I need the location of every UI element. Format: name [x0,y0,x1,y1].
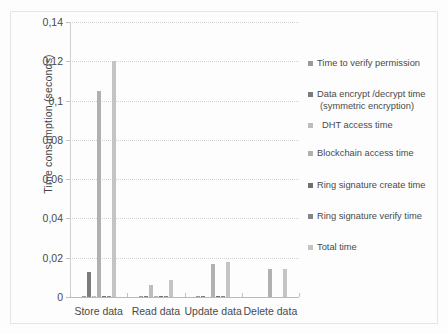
legend-swatch-icon [308,245,313,250]
x-axis-separator [185,293,186,297]
chart-figure: Time consumption (seconds) 00,020,040,06… [0,0,448,334]
bar-group: Delete data [242,22,299,297]
bar-group: Store data [70,22,127,297]
legend-item-label: Total time [317,242,357,254]
bar [97,91,101,297]
gridline [70,297,299,298]
y-axis-tick-label: 0,06 [43,173,63,185]
bar [144,296,148,297]
y-axis-tick-label: 0,1 [48,95,63,107]
bar [87,272,91,297]
x-axis-tick-label: Delete data [244,305,298,317]
bar-group: Read data [127,22,184,297]
legend-item[interactable]: Ring signature create time [308,180,442,192]
legend-item-label: Blockchain access time [317,148,414,160]
bar-groups: Store dataRead dataUpdate dataDelete dat… [70,22,299,297]
bar [221,296,225,297]
legend-item-label: Ring signature verify time [317,211,422,223]
bar [196,296,200,297]
bar [92,296,96,297]
bar [102,296,106,297]
legend-swatch-icon [308,61,313,66]
x-axis-separator [299,293,300,297]
legend-item[interactable]: Ring signature verify time [308,211,442,223]
bar [169,280,173,297]
bar [159,296,163,297]
x-axis-separator [242,293,243,297]
legend-item[interactable]: Blockchain access time [308,148,442,160]
bar [226,262,230,297]
y-axis-tick-label: 0,04 [43,212,63,224]
y-axis-tick-label: 0,02 [43,252,63,264]
bar [82,296,86,297]
bar [149,285,153,297]
y-axis-title: Time consumption (seconds) [42,14,54,234]
legend-swatch-icon [308,214,313,219]
x-axis-tick-label: Update data [185,305,242,317]
y-axis-tick-label: 0,08 [43,134,63,146]
legend-item-label: DHT access time [322,120,393,132]
bar [216,296,220,297]
bar [164,296,168,297]
y-axis-tick [66,297,70,298]
legend-swatch-icon [308,183,313,188]
x-axis-tick-label: Read data [132,305,180,317]
bar [201,296,205,297]
x-axis-separator [127,293,128,297]
legend-item-label-line2: (symmetric encryption) [317,101,426,113]
legend-item-label: Data encrypt /decrypt time(symmetric enc… [317,89,426,112]
x-axis-tick-label: Store data [74,305,122,317]
legend-swatch-icon [308,151,313,156]
legend-item-label: Time to verify permission [317,58,420,70]
bar [112,61,116,297]
legend-swatch-icon [308,123,313,128]
legend-item[interactable]: Time to verify permission [308,58,442,70]
plot-area: 00,020,040,060,080,10,120,14 Store dataR… [70,22,299,297]
legend-item[interactable]: Data encrypt /decrypt time(symmetric enc… [308,89,442,112]
y-axis-tick-label: 0,12 [43,55,63,67]
x-axis-separator [70,293,71,297]
legend-item[interactable]: DHT access time [308,120,442,132]
bar [268,269,272,297]
bar [211,264,215,297]
bar [107,296,111,297]
legend-item[interactable]: Total time [308,242,442,254]
bar [139,296,143,297]
y-axis-tick-label: 0,14 [43,16,63,28]
bar-group: Update data [185,22,242,297]
y-axis-tick-label: 0 [57,291,63,303]
legend-swatch-icon [308,92,313,97]
bar [154,296,158,297]
bar [283,269,287,297]
legend-item-label: Ring signature create time [317,180,426,192]
